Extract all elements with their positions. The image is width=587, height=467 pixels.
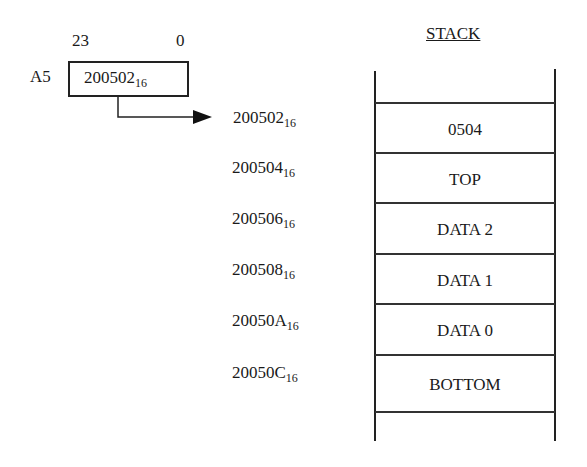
bit-low-label: 0 bbox=[176, 31, 185, 51]
address-label: 20050416 bbox=[232, 158, 295, 181]
pointer-arrow-icon bbox=[115, 97, 215, 125]
bit-high-label: 23 bbox=[72, 31, 89, 51]
stack-cell: DATA 1 bbox=[376, 271, 554, 291]
stack-cell: TOP bbox=[376, 170, 554, 190]
address-label: 20050216 bbox=[233, 108, 296, 131]
stack-cell: DATA 2 bbox=[376, 220, 554, 240]
address-label: 20050C16 bbox=[232, 363, 298, 386]
address-label: 20050816 bbox=[232, 260, 295, 283]
address-label: 20050A16 bbox=[232, 311, 299, 334]
stack-right-wall bbox=[554, 69, 556, 441]
stack-divider bbox=[375, 411, 555, 413]
register-value: 20050216 bbox=[84, 68, 147, 91]
stack-divider bbox=[375, 102, 555, 104]
stack-cell: 0504 bbox=[376, 120, 554, 140]
register-name: A5 bbox=[30, 67, 51, 87]
stack-cell: DATA 0 bbox=[376, 321, 554, 341]
address-label: 20050616 bbox=[232, 209, 295, 232]
stack-cell: BOTTOM bbox=[376, 375, 554, 395]
register-box: 20050216 bbox=[68, 61, 189, 97]
stack-divider bbox=[375, 354, 555, 356]
stack-divider bbox=[375, 152, 555, 154]
stack-divider bbox=[375, 303, 555, 305]
stack-divider bbox=[375, 202, 555, 204]
stack-divider bbox=[375, 253, 555, 255]
stack-title: STACK bbox=[426, 24, 480, 44]
